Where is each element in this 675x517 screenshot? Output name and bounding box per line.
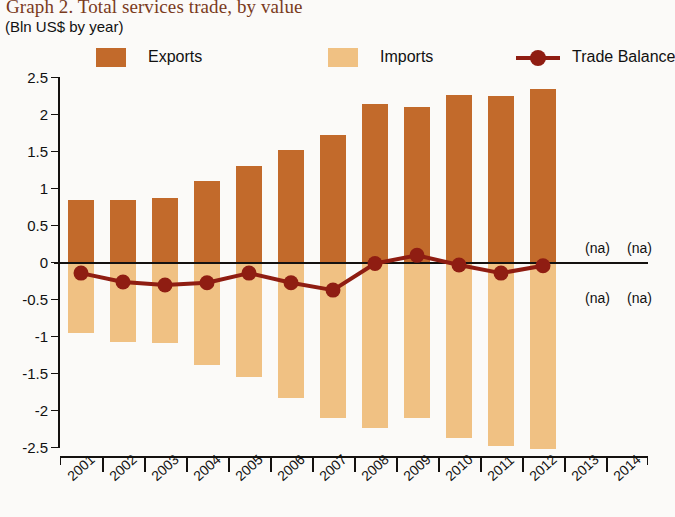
- trade-balance-marker-2001: [74, 266, 89, 281]
- x-tick: [606, 458, 608, 472]
- x-tick: [102, 458, 104, 472]
- x-tick: [480, 458, 482, 472]
- x-tick: [144, 458, 146, 472]
- x-tick: [354, 458, 356, 472]
- x-tick: [270, 458, 272, 472]
- trade-balance-marker-2008: [368, 256, 383, 271]
- chart-subtitle: (Bln US$ by year): [5, 18, 123, 35]
- trade-balance-marker-2004: [200, 275, 215, 290]
- x-tick: [312, 458, 314, 472]
- y-tick-label: 1: [40, 180, 48, 197]
- x-tick: [186, 458, 188, 472]
- y-tick-label: 2: [40, 106, 48, 123]
- trade-balance-marker-2002: [116, 274, 131, 289]
- y-axis: 2.521.510.50-0.5-1-1.5-2-2.5: [0, 62, 60, 456]
- trade-balance-marker-2005: [242, 266, 257, 281]
- y-tick-label: 1.5: [27, 143, 48, 160]
- trade-balance-polyline: [81, 255, 543, 290]
- trade-balance-marker-2012: [536, 258, 551, 273]
- y-tick-label: 2.5: [27, 69, 48, 86]
- x-tick: [228, 458, 230, 472]
- trade-balance-marker-2011: [494, 266, 509, 281]
- y-tick-label: -2.5: [22, 439, 48, 456]
- y-tick-label: -1: [35, 328, 48, 345]
- trade-balance-marker-2006: [284, 275, 299, 290]
- trade-balance-marker-2009: [410, 248, 425, 263]
- x-tick: [396, 458, 398, 472]
- x-tick: [438, 458, 440, 472]
- trade-balance-line: [60, 62, 648, 456]
- y-tick: [51, 447, 60, 448]
- plot-area: (na)(na)(na)(na): [60, 62, 648, 456]
- x-axis-cap-right: [647, 456, 648, 465]
- trade-balance-marker-2010: [452, 257, 467, 272]
- x-tick: [522, 458, 524, 472]
- y-tick-label: 0.5: [27, 217, 48, 234]
- trade-balance-marker-2003: [158, 277, 173, 292]
- chart-title: Graph 2. Total services trade, by value: [6, 0, 303, 18]
- y-tick-label: 0: [40, 254, 48, 271]
- x-axis-cap-left: [60, 456, 61, 465]
- trade-balance-marker-2007: [326, 283, 341, 298]
- y-tick-label: -0.5: [22, 291, 48, 308]
- y-tick-label: -2: [35, 402, 48, 419]
- y-tick-label: -1.5: [22, 365, 48, 382]
- x-tick: [564, 458, 566, 472]
